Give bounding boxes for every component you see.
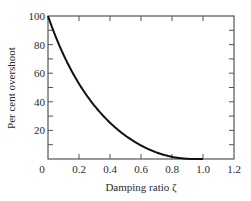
overshoot-chart: 00.20.40.60.81.01.2 20406080100 Damping … <box>0 0 251 201</box>
x-tick-label: 1.2 <box>227 163 241 175</box>
y-axis-label: Per cent overshoot <box>5 47 17 129</box>
y-tick-label: 80 <box>34 39 46 51</box>
y-tick-label: 40 <box>34 96 46 108</box>
x-tick-label: 0.6 <box>134 163 148 175</box>
overshoot-curve <box>48 16 203 159</box>
plot-frame <box>48 16 234 159</box>
x-axis-label: Damping ratio ζ <box>105 181 177 194</box>
x-tick-label: 0.8 <box>165 163 179 175</box>
x-tick-label: 0.4 <box>103 163 117 175</box>
axis-ticks <box>48 16 234 159</box>
y-tick-label: 60 <box>34 67 46 79</box>
x-tick-label: 0.2 <box>72 163 86 175</box>
x-tick-label: 1.0 <box>196 163 210 175</box>
plot-border <box>48 16 234 159</box>
y-axis-tick-labels: 20406080100 <box>29 10 46 136</box>
y-tick-label: 20 <box>34 124 46 136</box>
x-tick-label: 0 <box>39 163 45 175</box>
x-axis-tick-labels: 00.20.40.60.81.01.2 <box>39 163 241 175</box>
y-tick-label: 100 <box>29 10 46 22</box>
